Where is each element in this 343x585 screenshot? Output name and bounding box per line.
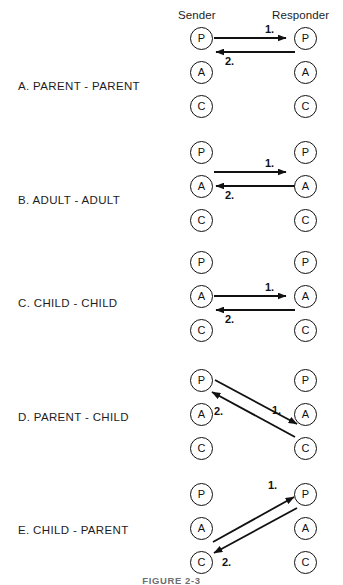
- column-header-sender: Sender: [178, 9, 216, 21]
- node-a-responder-adult: A: [294, 61, 317, 84]
- node-c-sender-child: C: [190, 319, 213, 342]
- row-a-arrows: [214, 38, 295, 52]
- node-a-responder-parent: P: [294, 27, 317, 50]
- node-e-responder-child: C: [294, 551, 317, 574]
- row-label-e: E. CHILD - PARENT: [18, 524, 129, 536]
- node-c-responder-parent: P: [294, 251, 317, 274]
- row-c-arrows: [214, 296, 295, 310]
- node-b-responder-parent: P: [294, 141, 317, 164]
- row-d-arrows: [212, 380, 297, 437]
- arrow-d-2: [212, 392, 295, 437]
- node-a-sender-parent: P: [190, 27, 213, 50]
- arrow-label-d-1: 1.: [272, 404, 281, 416]
- node-c-responder-adult: A: [294, 285, 317, 308]
- node-d-sender-parent: P: [190, 369, 213, 392]
- row-b-arrows: [214, 172, 295, 186]
- row-label-d: D. PARENT - CHILD: [18, 411, 129, 423]
- node-e-sender-child: C: [190, 551, 213, 574]
- arrow-label-c-1: 1.: [265, 281, 274, 293]
- node-c-sender-adult: A: [190, 285, 213, 308]
- node-d-responder-child: C: [294, 437, 317, 460]
- node-d-responder-parent: P: [294, 369, 317, 392]
- node-d-sender-child: C: [190, 437, 213, 460]
- node-b-sender-adult: A: [190, 175, 213, 198]
- node-b-responder-child: C: [294, 209, 317, 232]
- node-e-sender-parent: P: [190, 483, 213, 506]
- node-c-responder-child: C: [294, 319, 317, 342]
- arrow-label-e-1: 1.: [268, 479, 277, 491]
- node-b-sender-child: C: [190, 209, 213, 232]
- arrow-d-1: [215, 380, 297, 424]
- arrow-label-d-2: 2.: [214, 405, 223, 417]
- arrow-label-a-1: 1.: [265, 23, 274, 35]
- row-label-c: C. CHILD - CHILD: [18, 297, 118, 309]
- node-a-responder-child: C: [294, 95, 317, 118]
- node-e-sender-adult: A: [190, 517, 213, 540]
- node-c-sender-parent: P: [190, 251, 213, 274]
- node-d-sender-adult: A: [190, 403, 213, 426]
- row-label-a: A. PARENT - PARENT: [18, 80, 140, 92]
- node-b-sender-parent: P: [190, 141, 213, 164]
- row-e-arrows: [213, 497, 297, 553]
- arrow-label-e-2: 2.: [222, 556, 231, 568]
- node-e-responder-adult: A: [294, 517, 317, 540]
- figure-caption: FIGURE 2-3: [0, 575, 343, 585]
- arrow-e-2: [214, 508, 297, 553]
- column-header-responder: Responder: [272, 9, 329, 21]
- node-d-responder-adult: A: [294, 403, 317, 426]
- arrow-label-b-2: 2.: [225, 189, 234, 201]
- node-a-sender-child: C: [190, 95, 213, 118]
- arrow-e-1: [213, 497, 294, 542]
- node-b-responder-adult: A: [294, 175, 317, 198]
- arrow-label-a-2: 2.: [225, 55, 234, 67]
- row-label-b: B. ADULT - ADULT: [18, 194, 120, 206]
- arrow-label-b-1: 1.: [265, 157, 274, 169]
- node-a-sender-adult: A: [190, 61, 213, 84]
- arrow-label-c-2: 2.: [225, 313, 234, 325]
- node-e-responder-parent: P: [294, 483, 317, 506]
- transactional-analysis-figure: Sender Responder: [0, 0, 343, 585]
